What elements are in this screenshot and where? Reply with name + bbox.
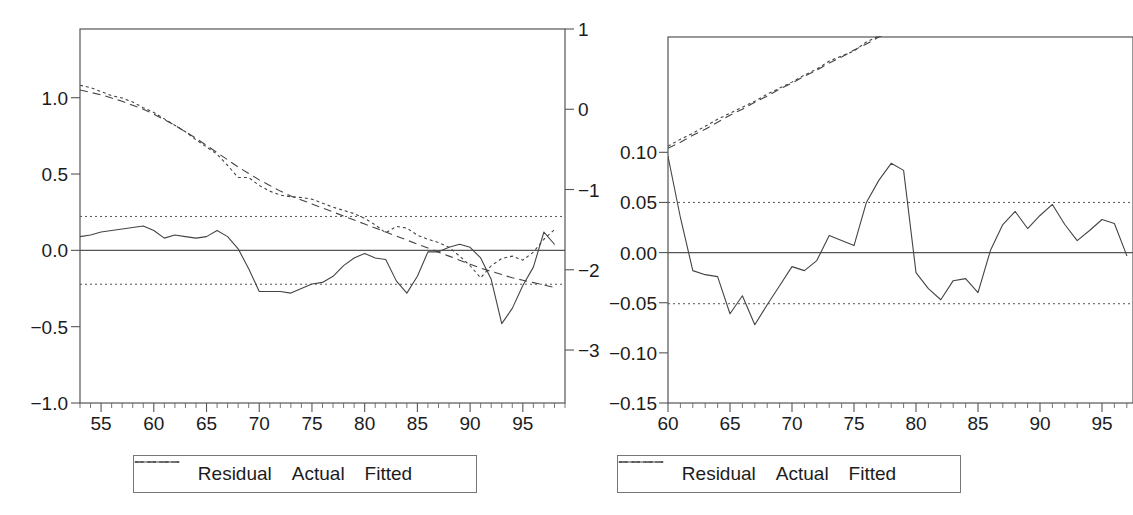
series-line-fitted bbox=[80, 90, 554, 287]
x-axis-tick-label-95: 95 bbox=[1091, 413, 1112, 434]
y-left-tick-label--0.05: −0.05 bbox=[609, 293, 657, 314]
legend-swatch-dashed bbox=[618, 456, 664, 468]
y-right-tick-label--2: −2 bbox=[578, 260, 600, 281]
x-axis-tick-label-65: 65 bbox=[719, 413, 740, 434]
chart-panel-right: 60657075808590950.100.050.00−0.05−0.10−0… bbox=[600, 0, 1133, 515]
legend-entry-fitted: Fitted bbox=[849, 463, 897, 485]
y-left-tick-label--0.10: −0.10 bbox=[609, 343, 657, 364]
legend-right: ResidualActualFitted bbox=[617, 455, 961, 493]
y-left-tick-label-0.05: 0.05 bbox=[620, 192, 657, 213]
x-axis-tick-label-75: 75 bbox=[301, 413, 322, 434]
y-left-tick-label-0.5: 0.5 bbox=[42, 164, 68, 185]
legend-left: ResidualActualFitted bbox=[133, 455, 477, 493]
y-left-tick-label-0.10: 0.10 bbox=[620, 142, 657, 163]
x-axis-tick-label-80: 80 bbox=[905, 413, 926, 434]
x-axis-tick-label-95: 95 bbox=[512, 413, 533, 434]
legend-entry-actual: Actual bbox=[776, 463, 829, 485]
legend-label-actual: Actual bbox=[776, 463, 829, 485]
series-line-residual bbox=[668, 156, 1127, 324]
legend-entry-residual: Residual bbox=[682, 463, 756, 485]
y-right-tick-label-0: 0 bbox=[578, 99, 589, 120]
figure-root: 5560657075808590951.00.50.0−0.5−1.010−1−… bbox=[0, 0, 1133, 515]
x-axis-tick-label-90: 90 bbox=[460, 413, 481, 434]
y-right-tick-label--1: −1 bbox=[578, 180, 600, 201]
y-left-tick-label--1.0: −1.0 bbox=[30, 393, 68, 414]
legend-entry-actual: Actual bbox=[292, 463, 345, 485]
legend-entry-fitted: Fitted bbox=[365, 463, 413, 485]
x-axis-tick-label-70: 70 bbox=[249, 413, 270, 434]
legend-label-residual: Residual bbox=[682, 463, 756, 485]
y-left-tick-label--0.15: −0.15 bbox=[609, 393, 657, 414]
x-axis-tick-label-85: 85 bbox=[407, 413, 428, 434]
legend-swatch-dashed bbox=[134, 456, 180, 468]
plot-frame bbox=[80, 29, 565, 403]
y-right-tick-label-1: 1 bbox=[578, 19, 589, 40]
legend-label-actual: Actual bbox=[292, 463, 345, 485]
x-axis-tick-label-55: 55 bbox=[91, 413, 112, 434]
x-axis-tick-label-70: 70 bbox=[781, 413, 802, 434]
y-right-tick-label--3: −3 bbox=[578, 340, 600, 361]
y-left-tick-label-1.0: 1.0 bbox=[42, 88, 68, 109]
legend-entry-residual: Residual bbox=[198, 463, 272, 485]
chart-left-canvas: 5560657075808590951.00.50.0−0.5−1.010−1−… bbox=[0, 0, 600, 450]
x-axis-tick-label-65: 65 bbox=[196, 413, 217, 434]
x-axis-tick-label-90: 90 bbox=[1029, 413, 1050, 434]
x-axis-tick-label-75: 75 bbox=[843, 413, 864, 434]
y-left-tick-label-0.0: 0.0 bbox=[42, 240, 68, 261]
chart-right-canvas: 60657075808590950.100.050.00−0.05−0.10−0… bbox=[600, 0, 1133, 450]
x-axis-tick-label-60: 60 bbox=[143, 413, 164, 434]
x-axis-tick-label-85: 85 bbox=[967, 413, 988, 434]
x-axis-tick-label-80: 80 bbox=[354, 413, 375, 434]
series-line-fitted bbox=[668, 0, 1127, 148]
chart-panel-left: 5560657075808590951.00.50.0−0.5−1.010−1−… bbox=[0, 0, 600, 515]
legend-label-residual: Residual bbox=[198, 463, 272, 485]
series-line-actual bbox=[668, 0, 1127, 146]
plot-frame bbox=[668, 37, 1133, 403]
x-axis-tick-label-60: 60 bbox=[657, 413, 678, 434]
legend-label-fitted: Fitted bbox=[365, 463, 413, 485]
y-left-tick-label-0.00: 0.00 bbox=[620, 243, 657, 264]
series-line-actual bbox=[80, 85, 554, 278]
legend-label-fitted: Fitted bbox=[849, 463, 897, 485]
y-left-tick-label--0.5: −0.5 bbox=[30, 317, 68, 338]
